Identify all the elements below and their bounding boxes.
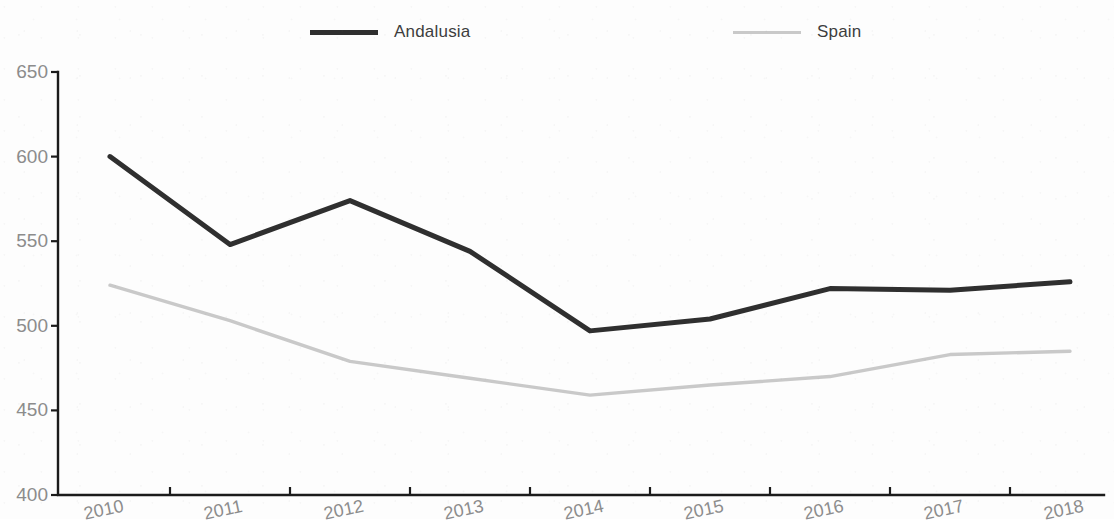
series-group	[110, 157, 1070, 396]
axis-lines	[58, 72, 1104, 495]
y-tick-label: 600	[2, 147, 48, 166]
series-line-andalusia[interactable]	[110, 157, 1070, 331]
axis-group	[51, 72, 1104, 495]
y-tick-label: 500	[2, 316, 48, 335]
series-line-spain[interactable]	[110, 285, 1070, 395]
y-tick-label: 400	[2, 485, 48, 504]
y-tick-label: 650	[2, 62, 48, 81]
y-tick-label: 450	[2, 400, 48, 419]
y-tick-label: 550	[2, 231, 48, 250]
